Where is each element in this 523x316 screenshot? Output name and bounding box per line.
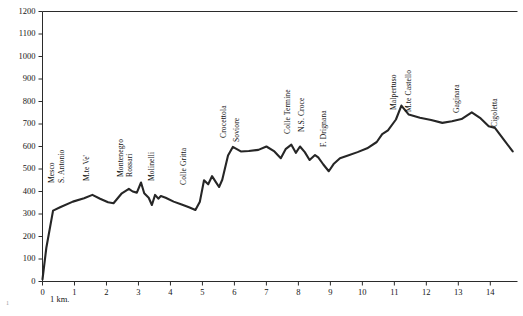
x-tick-label: 7 bbox=[264, 287, 268, 297]
place-label: Mesco bbox=[47, 162, 56, 183]
x-tick-label: 9 bbox=[328, 287, 332, 297]
x-tick-label: 0 bbox=[40, 287, 44, 297]
place-label: Molinelli bbox=[147, 152, 156, 181]
profile-svg: 0100200300400500600700800900100011001200… bbox=[0, 0, 523, 316]
y-tick-label: 200 bbox=[23, 231, 36, 241]
elevation-series-line bbox=[43, 106, 513, 280]
y-tick-label: 0 bbox=[31, 276, 35, 286]
place-label: F. Drignana bbox=[319, 110, 328, 147]
y-tick-label: 400 bbox=[23, 186, 36, 196]
y-tick-label: 1200 bbox=[19, 6, 36, 16]
place-label: Cigoletta bbox=[490, 98, 499, 127]
x-tick-label: 6 bbox=[232, 287, 236, 297]
x-tick-label: 12 bbox=[422, 287, 431, 297]
x-tick-label: 5 bbox=[200, 287, 204, 297]
place-label: Crocettola bbox=[219, 105, 228, 138]
place-label: M.te Ve' bbox=[82, 154, 91, 181]
y-tick-label: 1100 bbox=[19, 28, 36, 38]
place-label: Colle Termine bbox=[283, 89, 292, 134]
y-tick-label: 600 bbox=[23, 141, 36, 151]
scale-bar-label: 1 km. bbox=[50, 294, 69, 304]
place-label: N.S. Croce bbox=[297, 97, 306, 132]
x-axis-ticks: 01234567891011121314 bbox=[40, 282, 495, 297]
place-label: Rossari bbox=[125, 154, 134, 177]
y-axis-ticks: 0100200300400500600700800900100011001200 bbox=[19, 6, 43, 286]
page-corner-mark: 1 bbox=[6, 300, 9, 306]
x-tick-label: 8 bbox=[296, 287, 300, 297]
place-label: Malpertuso bbox=[389, 74, 398, 110]
place-label: Soviore bbox=[232, 117, 241, 142]
y-tick-label: 700 bbox=[23, 118, 36, 128]
place-label: S. Antonio bbox=[57, 149, 66, 183]
y-tick-label: 100 bbox=[23, 253, 36, 263]
place-label: Gaginara bbox=[452, 84, 461, 113]
x-tick-label: 2 bbox=[104, 287, 108, 297]
elevation-profile-chart: 0100200300400500600700800900100011001200… bbox=[0, 0, 523, 316]
y-tick-label: 900 bbox=[23, 73, 36, 83]
x-tick-label: 1 bbox=[72, 287, 76, 297]
x-tick-label: 11 bbox=[390, 287, 398, 297]
x-tick-label: 4 bbox=[168, 287, 173, 297]
plot-frame bbox=[43, 12, 518, 282]
x-tick-label: 14 bbox=[486, 287, 495, 297]
place-name-labels: MescoS. AntonioM.te Ve'MontenegroRossari… bbox=[47, 70, 499, 185]
x-tick-label: 3 bbox=[136, 287, 140, 297]
x-tick-label: 10 bbox=[358, 287, 367, 297]
x-tick-label: 13 bbox=[454, 287, 463, 297]
place-label: M.te Castello bbox=[404, 70, 413, 112]
y-tick-label: 300 bbox=[23, 208, 36, 218]
y-tick-label: 800 bbox=[23, 96, 36, 106]
place-label: Montenegro bbox=[116, 139, 125, 177]
y-tick-label: 500 bbox=[23, 163, 36, 173]
place-label: Colle Gritta bbox=[179, 147, 188, 185]
y-tick-label: 1000 bbox=[19, 51, 36, 61]
